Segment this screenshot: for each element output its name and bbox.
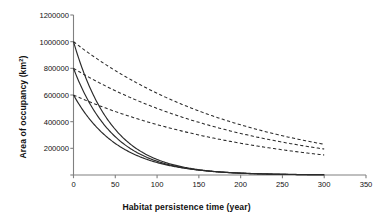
x-axis-tick-label: 250 <box>276 180 289 189</box>
x-axis-tick-label: 150 <box>193 180 206 189</box>
x-axis-tick-label: 0 <box>71 180 75 189</box>
x-axis-tick-label: 350 <box>360 180 373 189</box>
x-axis-title: Habitat persistence time (year) <box>0 202 373 212</box>
y-axis-title-main: Area of occupancy (km <box>18 62 28 159</box>
x-axis-tick-labels: 050100150200250300350 <box>0 0 373 214</box>
chart-figure: 20000040000060000080000010000001200000 0… <box>0 0 373 214</box>
y-axis-title-superscript: 2 <box>18 59 24 62</box>
y-axis-title: Area of occupancy (km2) <box>18 32 29 182</box>
x-axis-tick-label: 300 <box>318 180 331 189</box>
x-axis-tick-label: 100 <box>151 180 164 189</box>
y-axis-title-tail: ) <box>18 56 28 59</box>
x-axis-tick-label: 200 <box>234 180 247 189</box>
x-axis-tick-label: 50 <box>111 180 119 189</box>
